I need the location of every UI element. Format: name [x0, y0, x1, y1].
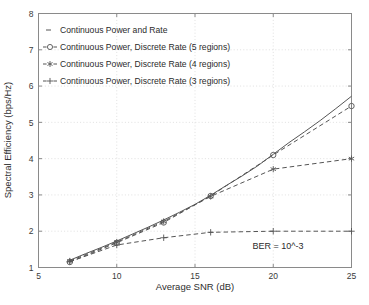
legend-label: Continuous Power, Discrete Rate (4 regio… — [60, 59, 230, 69]
y-tick-label: 5 — [29, 118, 34, 128]
legend-entry: Continuous Power, Discrete Rate (3 regio… — [43, 76, 230, 86]
legend-entry: Continuous Power and Rate — [46, 25, 168, 35]
x-tick-label: 15 — [190, 271, 200, 281]
legend-label: Continuous Power, Discrete Rate (5 regio… — [60, 42, 230, 52]
y-tick-label: 3 — [29, 190, 34, 200]
legend-label: Continuous Power, Discrete Rate (3 regio… — [60, 76, 230, 86]
x-axis-title: Average SNR (dB) — [156, 281, 235, 292]
y-tick-label: 8 — [29, 9, 34, 19]
y-tick-label: 7 — [29, 45, 34, 55]
legend-entry: Continuous Power, Discrete Rate (4 regio… — [43, 59, 230, 69]
x-tick-label: 10 — [112, 271, 122, 281]
legend-entry: Continuous Power, Discrete Rate (5 regio… — [43, 42, 230, 52]
x-tick-label: 5 — [36, 271, 41, 281]
y-tick-label: 4 — [29, 154, 34, 164]
legend-label: Continuous Power and Rate — [60, 25, 168, 35]
chart-svg: 510152025 12345678 Average SNR (dB) Spec… — [0, 0, 369, 305]
y-axis-title: Spectral Efficiency (bps/Hz) — [2, 82, 13, 199]
y-tick-label: 1 — [29, 263, 34, 273]
ber-annotation: BER = 10^-3 — [253, 241, 304, 251]
x-tick-label: 20 — [269, 271, 279, 281]
y-tick-label: 2 — [29, 226, 34, 236]
x-tick-label: 25 — [347, 271, 357, 281]
chart-figure: 510152025 12345678 Average SNR (dB) Spec… — [0, 0, 369, 305]
y-tick-label: 6 — [29, 81, 34, 91]
